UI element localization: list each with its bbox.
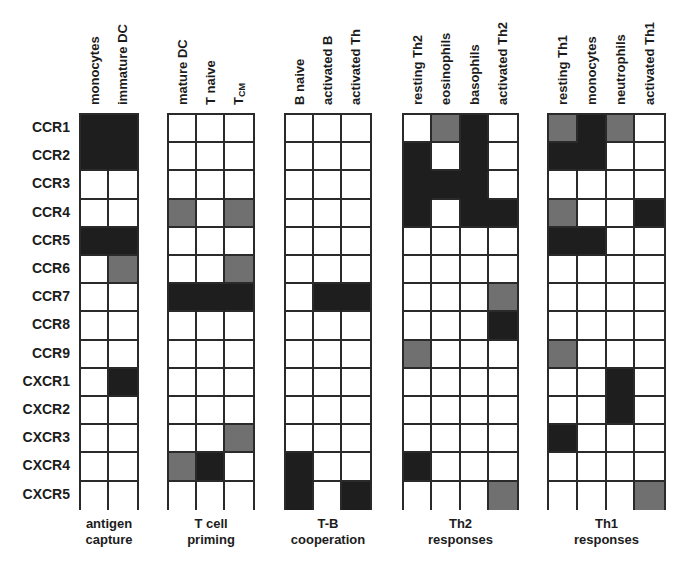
cell-cxcr3-activated-th1 bbox=[635, 425, 664, 453]
cell-cxcr4-activated-th bbox=[342, 453, 370, 481]
cell-ccr3-activated-th bbox=[342, 171, 370, 199]
cell-ccr1-resting-th2 bbox=[404, 115, 432, 143]
cell-ccr1-basophils bbox=[461, 115, 489, 143]
cell-ccr9-activated-b bbox=[314, 341, 342, 369]
cell-ccr6-resting-th1 bbox=[549, 256, 578, 284]
cell-cxcr3-resting-th2 bbox=[404, 425, 432, 453]
cell-cxcr5-activated-th1 bbox=[635, 482, 664, 510]
cell-cxcr2-monocytes bbox=[81, 397, 109, 425]
cell-cxcr3-resting-th1 bbox=[549, 425, 578, 453]
cell-cxcr5-t-naive bbox=[197, 482, 225, 510]
cell-cxcr4-neutrophils bbox=[607, 453, 636, 481]
cell-ccr1-activated-th2 bbox=[489, 115, 517, 143]
cell-ccr7-monocytes bbox=[578, 284, 607, 312]
cell-cxcr2-neutrophils bbox=[607, 397, 636, 425]
cell-cxcr3-activated-b bbox=[314, 425, 342, 453]
cell-ccr4-activated-th bbox=[342, 200, 370, 228]
cell-cxcr4-t-naive bbox=[197, 453, 225, 481]
cell-ccr1-t-naive bbox=[197, 115, 225, 143]
cell-ccr1-b-naive bbox=[286, 115, 314, 143]
column-header-t-naive: T naive bbox=[203, 60, 219, 105]
cell-ccr4-immature-dc bbox=[109, 200, 137, 228]
cell-ccr2-activated-th2 bbox=[489, 143, 517, 171]
column-header-resting-th2: resting Th2 bbox=[410, 35, 426, 105]
cell-cxcr1-basophils bbox=[461, 369, 489, 397]
cell-ccr2-immature-dc bbox=[109, 143, 137, 171]
cell-ccr4-activated-b bbox=[314, 200, 342, 228]
cell-ccr5-eosinophils bbox=[432, 228, 460, 256]
column-header-activated-b: activated B bbox=[320, 36, 336, 105]
cell-ccr4-resting-th2 bbox=[404, 200, 432, 228]
cell-cxcr4-immature-dc bbox=[109, 453, 137, 481]
row-label-cxcr3: CXCR3 bbox=[0, 423, 70, 451]
cell-ccr8-t-cm bbox=[225, 312, 253, 340]
cell-cxcr2-b-naive bbox=[286, 397, 314, 425]
cell-ccr8-mature-dc bbox=[169, 312, 197, 340]
cell-ccr4-t-cm bbox=[225, 200, 253, 228]
cell-cxcr1-activated-th bbox=[342, 369, 370, 397]
row-label-ccr4: CCR4 bbox=[0, 198, 70, 226]
cell-cxcr2-resting-th2 bbox=[404, 397, 432, 425]
cell-ccr5-t-naive bbox=[197, 228, 225, 256]
row-label-cxcr4: CXCR4 bbox=[0, 451, 70, 479]
cell-ccr2-neutrophils bbox=[607, 143, 636, 171]
row-label-ccr5: CCR5 bbox=[0, 226, 70, 254]
cell-ccr9-activated-th2 bbox=[489, 341, 517, 369]
row-label-ccr9: CCR9 bbox=[0, 339, 70, 367]
cell-cxcr1-activated-th1 bbox=[635, 369, 664, 397]
cell-ccr6-neutrophils bbox=[607, 256, 636, 284]
cell-cxcr4-resting-th2 bbox=[404, 453, 432, 481]
cell-ccr2-eosinophils bbox=[432, 143, 460, 171]
cell-ccr8-activated-th bbox=[342, 312, 370, 340]
cell-cxcr3-eosinophils bbox=[432, 425, 460, 453]
cell-cxcr2-eosinophils bbox=[432, 397, 460, 425]
cell-cxcr4-eosinophils bbox=[432, 453, 460, 481]
cell-ccr3-eosinophils bbox=[432, 171, 460, 199]
cell-ccr6-activated-th bbox=[342, 256, 370, 284]
cell-ccr8-resting-th2 bbox=[404, 312, 432, 340]
cell-ccr6-t-naive bbox=[197, 256, 225, 284]
cell-cxcr5-monocytes bbox=[81, 482, 109, 510]
cell-ccr7-b-naive bbox=[286, 284, 314, 312]
cell-ccr1-monocytes bbox=[81, 115, 109, 143]
cell-ccr6-resting-th2 bbox=[404, 256, 432, 284]
cell-cxcr1-b-naive bbox=[286, 369, 314, 397]
cell-ccr1-activated-th bbox=[342, 115, 370, 143]
cell-ccr9-neutrophils bbox=[607, 341, 636, 369]
cell-cxcr2-resting-th1 bbox=[549, 397, 578, 425]
cell-ccr6-b-naive bbox=[286, 256, 314, 284]
cell-ccr7-mature-dc bbox=[169, 284, 197, 312]
cell-cxcr5-activated-th bbox=[342, 482, 370, 510]
cell-ccr9-mature-dc bbox=[169, 341, 197, 369]
group-label-0: antigen capture bbox=[59, 516, 159, 548]
cell-ccr6-activated-th1 bbox=[635, 256, 664, 284]
cell-ccr2-activated-b bbox=[314, 143, 342, 171]
cell-ccr4-monocytes bbox=[81, 200, 109, 228]
cell-cxcr1-resting-th1 bbox=[549, 369, 578, 397]
cell-cxcr1-eosinophils bbox=[432, 369, 460, 397]
cell-cxcr3-t-cm bbox=[225, 425, 253, 453]
cell-cxcr1-immature-dc bbox=[109, 369, 137, 397]
cell-ccr7-activated-th bbox=[342, 284, 370, 312]
column-header-b-naive: B naive bbox=[292, 59, 308, 105]
cell-ccr8-b-naive bbox=[286, 312, 314, 340]
cell-cxcr1-monocytes bbox=[578, 369, 607, 397]
cell-cxcr3-activated-th2 bbox=[489, 425, 517, 453]
cell-ccr8-neutrophils bbox=[607, 312, 636, 340]
cell-cxcr5-activated-th2 bbox=[489, 482, 517, 510]
cell-ccr8-t-naive bbox=[197, 312, 225, 340]
cell-ccr1-mature-dc bbox=[169, 115, 197, 143]
group-block-4 bbox=[547, 113, 666, 510]
cell-ccr8-immature-dc bbox=[109, 312, 137, 340]
cell-ccr2-mature-dc bbox=[169, 143, 197, 171]
cell-ccr8-monocytes bbox=[578, 312, 607, 340]
cell-ccr5-monocytes bbox=[578, 228, 607, 256]
cell-ccr7-t-cm bbox=[225, 284, 253, 312]
cell-ccr7-activated-th2 bbox=[489, 284, 517, 312]
cell-ccr4-t-naive bbox=[197, 200, 225, 228]
cell-cxcr2-basophils bbox=[461, 397, 489, 425]
row-label-ccr6: CCR6 bbox=[0, 254, 70, 282]
cell-ccr9-eosinophils bbox=[432, 341, 460, 369]
cell-ccr3-immature-dc bbox=[109, 171, 137, 199]
cell-ccr3-basophils bbox=[461, 171, 489, 199]
